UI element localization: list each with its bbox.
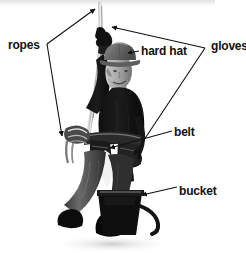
scan-top-band	[0, 0, 215, 6]
callout-label-belt: belt	[174, 126, 195, 138]
callout-label-bucket: bucket	[179, 185, 216, 197]
bucket-rim	[97, 190, 144, 196]
ground-shadow	[50, 235, 174, 253]
callout-label-ropes: ropes	[8, 39, 40, 51]
annotated-photo-figure: ropes hard hat gloves belt bucket	[0, 0, 246, 253]
eye-right	[124, 70, 127, 72]
callout-label-hard-hat: hard hat	[141, 45, 187, 57]
callout-label-gloves: gloves	[211, 40, 246, 52]
eye-left	[113, 70, 116, 72]
